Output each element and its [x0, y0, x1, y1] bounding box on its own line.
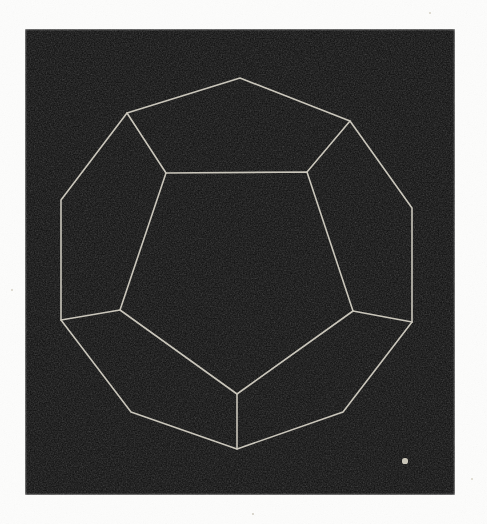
faint-speck-bottom-margin — [252, 513, 254, 515]
connecting-edges-group — [61, 113, 412, 449]
faint-speck-upper-right — [429, 12, 431, 14]
wireframe-layer — [25, 29, 455, 495]
connecting-edge-1 — [127, 113, 166, 173]
faint-speck-right-margin — [471, 478, 473, 480]
figure-root — [0, 0, 487, 524]
faint-speck-left-margin — [11, 289, 13, 291]
connecting-edge-2 — [307, 121, 350, 172]
printed-plate — [25, 29, 455, 495]
connecting-edge-5 — [61, 310, 120, 320]
front-face-pentagon-outline — [120, 172, 353, 394]
connecting-edge-3 — [353, 311, 412, 322]
